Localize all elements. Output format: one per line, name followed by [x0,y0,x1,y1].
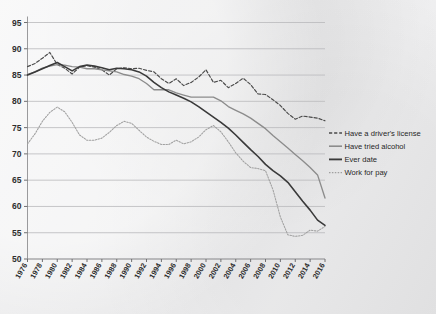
x-axis-tick-label: 2008 [251,262,267,281]
x-axis-tick-label: 2016 [311,262,327,281]
x-axis-tick-label: 1986 [88,262,104,281]
x-axis-tick-label: 2010 [266,262,282,281]
x-axis-tick-label: 2002 [207,262,223,281]
x-axis-tick-label: 2006 [236,262,252,281]
series-line-1 [28,65,326,199]
y-axis-tick-label: 70 [12,149,22,159]
x-axis-tick-label: 1978 [28,262,44,281]
series-line-2 [28,62,326,225]
x-axis-tick-label: 1990 [117,262,133,281]
y-axis-tick-label: 55 [12,228,22,238]
x-axis-tick-label: 1992 [132,262,148,281]
series-line-0 [28,52,326,120]
line-chart: 50556065707580859095 1976197819801982198… [0,0,436,314]
x-axis-tick-label: 1976 [13,262,29,281]
x-axis-tick-label: 2012 [281,262,297,281]
axes [28,17,326,260]
legend-label-3: Work for pay [345,168,388,177]
x-axis-tick-label: 1982 [58,262,74,281]
legend-label-2: Ever date [345,155,378,164]
y-axis-tick-labels: 50556065707580859095 [12,18,27,265]
x-axis-tick-label: 1996 [162,262,178,281]
y-axis-tick-label: 85 [12,70,22,80]
x-axis-tick-label: 2004 [221,261,237,281]
y-axis-tick-label: 65 [12,175,22,185]
y-axis-tick-label: 90 [12,44,22,54]
x-axis-tick-labels: 1976197819801982198419861988199019921994… [13,259,327,280]
x-axis-tick-label: 1980 [43,262,59,281]
chart-legend: Have a driver's licenseHave tried alcoho… [329,129,421,178]
series-line-3 [28,107,326,236]
y-axis-tick-label: 95 [12,18,22,28]
y-axis-tick-label: 60 [12,201,22,211]
x-axis-tick-label: 1998 [177,262,193,281]
y-axis-tick-label: 80 [12,96,22,106]
data-series-layer [28,52,326,236]
x-axis-tick-label: 1984 [73,261,89,281]
legend-label-1: Have tried alcohol [345,142,406,151]
x-axis-tick-label: 1988 [102,262,118,281]
chart-canvas: 50556065707580859095 1976197819801982198… [0,0,436,314]
x-axis-tick-label: 2000 [192,262,208,281]
x-axis-tick-label: 2014 [296,261,312,281]
x-axis-tick-label: 1994 [147,261,163,281]
y-axis-tick-label: 75 [12,123,22,133]
legend-label-0: Have a driver's license [345,129,421,138]
